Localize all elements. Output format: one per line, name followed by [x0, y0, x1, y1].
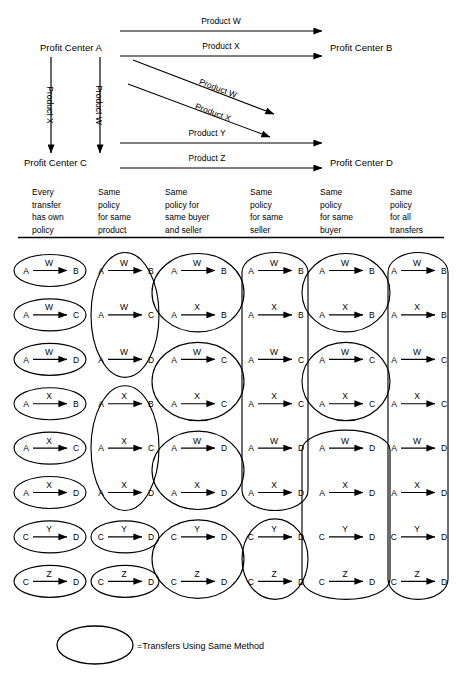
legend-label: =Transfers Using Same Method: [137, 641, 264, 651]
figure-root: Profit Center AProfit Center BProfit Cen…: [0, 0, 462, 684]
legend-ellipse-icon: [57, 626, 133, 664]
legend: =Transfers Using Same Method: [0, 0, 462, 684]
